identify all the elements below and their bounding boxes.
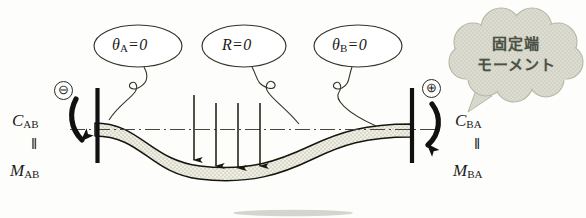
callout-label-reaction: R=0 [222,36,251,54]
theta-a-equals: = [129,36,138,53]
callout-label-theta-b: θB=0 [332,36,367,54]
right-c-symbol: C [455,111,466,130]
page-smudge [233,210,353,216]
reaction-equals: = [233,36,242,53]
callout-label-theta-a: θA=0 [112,36,147,54]
callout-leaders [109,67,376,126]
left-m-symbol: M [10,161,24,180]
deflected-beam [95,123,411,181]
right-m-subscript: BA [467,168,482,180]
diagram-graphics [0,0,586,218]
right-m-symbol: M [453,161,467,180]
left-equals-sign: ‖ [31,135,36,152]
theta-b-value: 0 [359,36,367,53]
minus-circle-icon: ⊖ [54,81,73,100]
left-moment-arrow [72,99,82,140]
left-c-subscript: AB [23,118,38,130]
theta-b-subscript: B [340,42,347,54]
right-moment-label-c: CBA [455,111,482,131]
figure-canvas: θA=0 R=0 θB=0 固定端 モーメント ⊖ ⊕ CAB ‖ MAB CB… [0,0,586,218]
left-c-symbol: C [12,111,23,130]
theta-a-subscript: A [120,42,128,54]
theta-b-equals: = [348,36,357,53]
load-arrows [194,95,260,168]
cloud-text-line-1: 固定端 [466,34,566,54]
reaction-value: 0 [243,36,251,53]
reaction-symbol: R [222,36,232,53]
plus-circle-icon: ⊕ [422,79,441,98]
theta-a-value: 0 [139,36,147,53]
cloud-text-line-2: モーメント [462,55,570,75]
right-c-subscript: BA [466,118,481,130]
theta-a-symbol: θ [112,36,120,53]
left-moment-label-m: MAB [10,161,39,181]
left-m-subscript: AB [24,168,39,180]
left-moment-label-c: CAB [12,111,39,131]
right-moment-arrow [428,104,438,145]
right-equals-sign: ‖ [474,135,479,152]
right-moment-label-m: MBA [453,161,482,181]
theta-b-symbol: θ [332,36,340,53]
